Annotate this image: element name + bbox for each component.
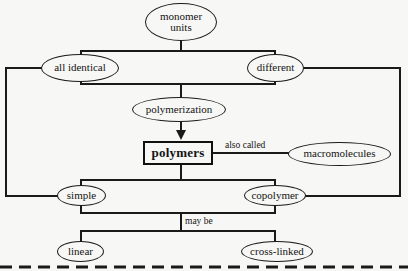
diagram-connectors xyxy=(0,0,408,271)
node-cross-linked[interactable]: cross-linked xyxy=(241,241,313,262)
node-linear[interactable]: linear xyxy=(57,241,104,262)
node-copolymer-label: copolymer xyxy=(251,190,298,201)
edge-label-may-be: may be xyxy=(185,217,213,227)
node-macromolecules-label: macromolecules xyxy=(303,148,375,159)
node-simple-label: simple xyxy=(67,190,96,201)
node-polymerization[interactable]: polymerization xyxy=(132,97,226,122)
node-macromolecules[interactable]: macromolecules xyxy=(288,142,391,166)
node-monomer-units-label: monomer units xyxy=(160,11,202,34)
node-all-identical[interactable]: all identical xyxy=(41,54,119,82)
edge-label-also-called: also called xyxy=(225,141,265,151)
node-polymers-label: polymers xyxy=(152,145,205,161)
node-cross-linked-label: cross-linked xyxy=(250,246,304,257)
node-monomer-units-line2: units xyxy=(170,21,191,33)
node-different[interactable]: different xyxy=(247,54,304,82)
node-monomer-units[interactable]: monomer units xyxy=(145,3,217,41)
node-copolymer[interactable]: copolymer xyxy=(244,185,306,206)
node-all-identical-label: all identical xyxy=(54,62,106,73)
node-simple[interactable]: simple xyxy=(57,185,106,206)
diagram-canvas: monomer units all identical different po… xyxy=(0,0,408,271)
wire-bypass-right xyxy=(304,68,400,196)
wire-bypass-left xyxy=(6,68,57,196)
node-different-label: different xyxy=(257,62,295,73)
node-polymers[interactable]: polymers xyxy=(143,141,213,165)
node-linear-label: linear xyxy=(68,246,93,257)
node-monomer-units-line1: monomer xyxy=(160,10,202,22)
node-polymerization-label: polymerization xyxy=(146,104,213,115)
wire-polymerization-arrowhead xyxy=(176,130,186,140)
